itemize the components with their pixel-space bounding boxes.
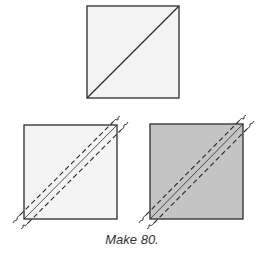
quilt-diagram [0, 0, 264, 263]
caption: Make 80. [0, 232, 264, 247]
bottom-right-square [139, 115, 254, 229]
bottom-left-square [13, 116, 128, 229]
top-square [87, 6, 179, 98]
